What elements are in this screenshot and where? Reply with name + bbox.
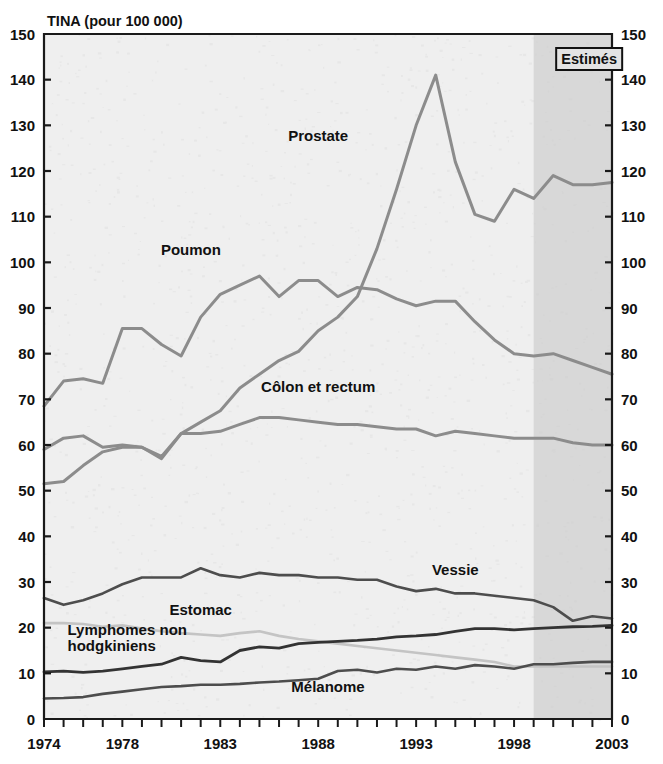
y-tick-label-right: 40: [621, 528, 638, 545]
y-tick-label-right: 50: [621, 482, 638, 499]
y-tick-label-right: 110: [621, 208, 645, 225]
y-tick-label-right: 80: [621, 345, 638, 362]
y-tick-label-right: 140: [621, 71, 646, 88]
y-tick-label-right: 60: [621, 437, 638, 454]
y-tick-label-right: 70: [621, 391, 638, 408]
cancer-incidence-line-chart: 0010102020303040405050606070708080909010…: [0, 0, 663, 764]
x-tick-label: 1974: [27, 735, 61, 752]
series-label-estomac: Estomac: [169, 601, 232, 618]
estimated-annotation-label: Estimés: [561, 51, 617, 67]
y-tick-label-left: 140: [10, 71, 35, 88]
series-label-lymphomes-non-hodgkiniens: Lymphomes non: [68, 621, 187, 638]
y-tick-label-left: 60: [18, 437, 35, 454]
y-tick-label-right: 10: [621, 665, 638, 682]
y-tick-label-right: 90: [621, 300, 638, 317]
y-tick-label-left: 130: [10, 117, 35, 134]
x-tick-label: 1983: [204, 735, 237, 752]
y-tick-label-left: 100: [10, 254, 35, 271]
y-tick-label-left: 50: [18, 482, 35, 499]
x-tick-label: 1988: [302, 735, 335, 752]
series-label-lymphomes-non-hodgkiniens-line2: hodgkiniens: [68, 637, 156, 654]
x-axis-ticks: 1974197819831988199319982003: [27, 719, 628, 752]
y-tick-label-left: 150: [10, 26, 35, 43]
y-tick-label-left: 120: [10, 163, 35, 180]
series-label-c-lon-et-rectum: Côlon et rectum: [261, 378, 375, 395]
y-axis-title: TINA (pour 100 000): [47, 13, 183, 29]
x-tick-label: 1998: [497, 735, 530, 752]
series-label-prostate: Prostate: [288, 127, 348, 144]
chart-svg: 0010102020303040405050606070708080909010…: [0, 0, 663, 764]
y-tick-label-left: 90: [18, 300, 35, 317]
series-label-m-lanome: Mélanome: [291, 678, 364, 695]
y-tick-label-right: 100: [621, 254, 646, 271]
y-tick-label-left: 70: [18, 391, 35, 408]
y-tick-label-left: 10: [18, 665, 35, 682]
x-tick-label: 1993: [399, 735, 432, 752]
estimated-annotation-badge: Estimés: [556, 48, 622, 70]
series-label-vessie: Vessie: [432, 561, 479, 578]
y-tick-label-right: 30: [621, 574, 638, 591]
y-tick-label-left: 80: [18, 345, 35, 362]
y-tick-label-right: 150: [621, 26, 646, 43]
x-tick-label: 1978: [106, 735, 139, 752]
x-tick-label: 2003: [595, 735, 628, 752]
y-tick-label-right: 130: [621, 117, 646, 134]
y-tick-label-left: 0: [27, 711, 35, 728]
y-tick-label-right: 20: [621, 619, 638, 636]
y-tick-label-right: 0: [621, 711, 629, 728]
series-label-poumon: Poumon: [161, 241, 221, 258]
y-tick-label-left: 40: [18, 528, 35, 545]
y-tick-label-right: 120: [621, 163, 646, 180]
y-tick-label-left: 110: [11, 208, 35, 225]
y-tick-label-left: 20: [18, 619, 35, 636]
y-tick-label-left: 30: [18, 574, 35, 591]
